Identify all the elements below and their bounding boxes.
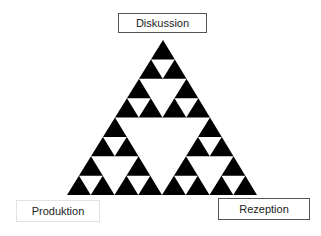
label-diskussion: Diskussion	[118, 13, 207, 33]
label-produktion: Produktion	[16, 200, 100, 222]
label-rezeption: Rezeption	[218, 198, 310, 220]
label-produktion-text: Produktion	[32, 205, 85, 217]
label-diskussion-text: Diskussion	[136, 17, 189, 29]
label-rezeption-text: Rezeption	[239, 203, 289, 215]
